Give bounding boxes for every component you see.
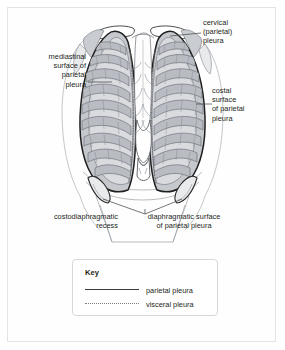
label-diaphragmatic-surface: diaphragmatic surface of parietal pleura bbox=[120, 212, 248, 230]
legend-box: Key parietal pleura visceral pleura bbox=[72, 259, 218, 316]
legend-entry-parietal: parietal pleura bbox=[85, 284, 209, 296]
label-cervical-pleura: cervical (parietal) pleura bbox=[203, 18, 275, 46]
legend-swatch-solid-line bbox=[85, 287, 139, 293]
legend-entry-visceral: visceral pleura bbox=[85, 298, 209, 310]
legend-label-parietal-pleura: parietal pleura bbox=[146, 286, 193, 295]
anatomy-figure: mediastinal surface of parietal pleura c… bbox=[0, 0, 285, 350]
label-mediastinal-surface: mediastinal surface of parietal pleura bbox=[14, 52, 86, 89]
legend-title: Key bbox=[85, 268, 99, 277]
legend-swatch-dotted-line bbox=[85, 301, 139, 307]
label-costal-surface: costal surface of parietal pleura bbox=[212, 86, 280, 123]
legend-label-visceral-pleura: visceral pleura bbox=[146, 300, 194, 309]
label-costodiaphragmatic-recess: costodiaphragmatic recess bbox=[18, 212, 118, 230]
